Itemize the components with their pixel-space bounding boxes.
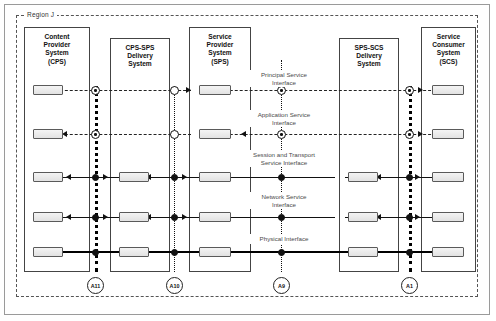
chip-scs-application xyxy=(432,129,464,139)
arrowhead-application-to-sps xyxy=(241,131,246,137)
chip-sps-scs-physical xyxy=(348,247,378,257)
node-a9-application xyxy=(277,130,286,139)
node-a10-network xyxy=(171,214,178,221)
arrowhead-session-left-a11 xyxy=(66,174,71,180)
reference-point-a1-label: A1 xyxy=(402,283,417,289)
chip-cps-application xyxy=(33,129,63,139)
node-a9-network xyxy=(278,214,285,221)
system-title-sps-scs: SPS-SCS Delivery System xyxy=(340,44,398,69)
reference-point-a10-label: A10 xyxy=(167,283,182,289)
diagram-canvas: Region J Content Provider System (CPS) C… xyxy=(0,0,496,321)
reference-point-a11: A11 xyxy=(87,277,104,294)
chip-scs-session xyxy=(432,172,464,182)
node-a11-session xyxy=(92,174,99,181)
system-box-sps-scs: SPS-SCS Delivery System xyxy=(339,38,399,272)
node-a10-physical xyxy=(171,249,178,256)
arrowhead-session-right-a10 xyxy=(182,174,187,180)
chip-scs-principal xyxy=(432,85,464,95)
chip-cps-session xyxy=(33,172,63,182)
node-a9-session xyxy=(278,174,285,181)
arrowhead-session-right-a11 xyxy=(103,174,108,180)
system-box-cps-sps: CPS-SPS Delivery System xyxy=(110,38,170,272)
region-label: Region J xyxy=(24,11,57,18)
interface-label-application: Application Service Interface xyxy=(238,110,330,127)
arrowhead-application-to-scs xyxy=(418,131,423,137)
chip-sps-scs-network xyxy=(348,212,378,222)
reference-point-a9-label: A9 xyxy=(274,283,289,289)
chip-cps-network xyxy=(33,212,63,222)
node-a1-physical xyxy=(406,249,413,256)
reference-point-a9: A9 xyxy=(273,277,290,294)
system-box-scs: Service Consumer System (SCS) xyxy=(421,27,476,272)
node-a10-session xyxy=(171,174,178,181)
node-a11-principal xyxy=(91,86,100,95)
chip-cps-principal xyxy=(33,85,63,95)
node-a11-application xyxy=(91,130,100,139)
system-title-sps: Service Provider System (SPS) xyxy=(190,33,250,66)
system-title-cps: Content Provider System (CPS) xyxy=(25,33,89,66)
interface-label-network: Network Service Interface xyxy=(240,192,328,209)
reference-point-a1: A1 xyxy=(401,277,418,294)
node-a1-application xyxy=(405,130,414,139)
node-a10-principal xyxy=(170,86,179,95)
interface-label-session: Session and Transport Service Interface xyxy=(234,150,334,167)
chip-scs-physical xyxy=(432,247,464,257)
node-a1-network xyxy=(406,214,413,221)
interface-label-principal: Principal Service Interface xyxy=(240,70,328,87)
rail-physical xyxy=(55,251,441,253)
node-a11-physical xyxy=(92,249,99,256)
reference-point-a10: A10 xyxy=(166,277,183,294)
system-title-cps-sps: CPS-SPS Delivery System xyxy=(111,44,169,69)
interface-label-physical: Physical Interface xyxy=(238,234,330,244)
node-a9-physical xyxy=(278,249,285,256)
arrowhead-network-right-a10 xyxy=(182,214,187,220)
system-title-scs: Service Consumer System (SCS) xyxy=(422,33,475,66)
arrowhead-session-right-a1 xyxy=(415,174,420,180)
chip-sps-scs-session xyxy=(348,172,378,182)
node-a11-network xyxy=(92,214,99,221)
arrowhead-network-left-a11 xyxy=(66,214,71,220)
chip-cps-physical xyxy=(33,247,63,257)
chip-sps-session xyxy=(199,172,231,182)
arrowhead-principal-to-scs xyxy=(418,87,423,93)
chip-sps-application xyxy=(199,129,231,139)
node-a10-application xyxy=(170,130,179,139)
node-a1-principal xyxy=(405,86,414,95)
chip-sps-principal xyxy=(199,85,231,95)
arrowhead-network-right-a11 xyxy=(103,214,108,220)
chip-sps-physical xyxy=(199,247,231,257)
arrowhead-principal-to-sps xyxy=(186,87,191,93)
reference-point-a11-label: A11 xyxy=(88,283,103,289)
chip-cps-sps-session xyxy=(119,172,149,182)
chip-sps-network xyxy=(199,212,231,222)
chip-scs-network xyxy=(432,212,464,222)
chip-cps-sps-physical xyxy=(119,247,149,257)
chip-cps-sps-network xyxy=(119,212,149,222)
system-box-cps: Content Provider System (CPS) xyxy=(24,27,90,272)
node-a1-session xyxy=(406,174,413,181)
arrowhead-network-right-a1 xyxy=(415,214,420,220)
node-a9-principal xyxy=(277,86,286,95)
